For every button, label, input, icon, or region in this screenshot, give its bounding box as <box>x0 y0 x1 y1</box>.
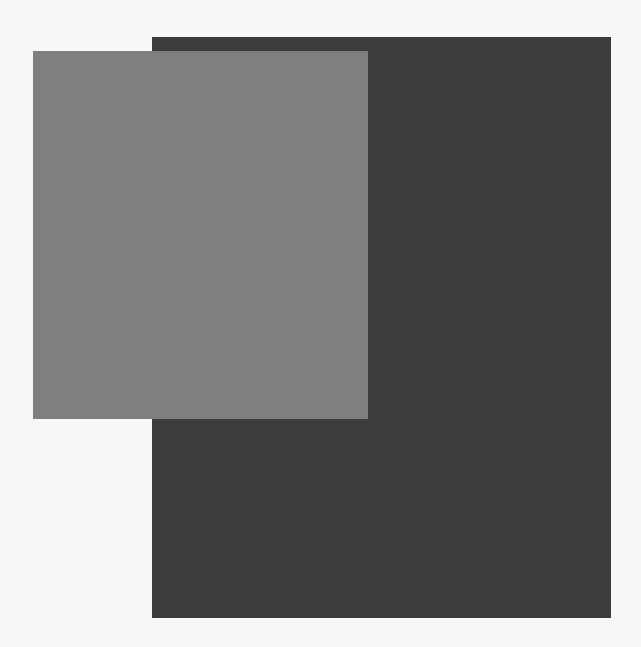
light-rectangle <box>33 51 368 419</box>
